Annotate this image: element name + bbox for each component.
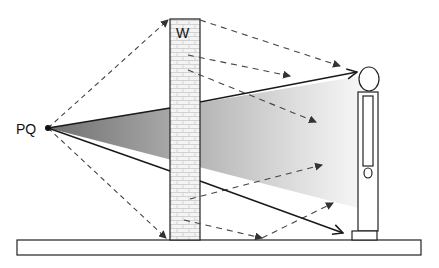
wall-label: W: [176, 25, 190, 41]
direct-beam-shadow: [48, 72, 385, 215]
observer-hand: [364, 168, 372, 178]
wall: W: [170, 19, 200, 240]
source-point: PQ: [16, 121, 51, 137]
diagram-canvas: W PQ: [0, 0, 439, 268]
observer-feet: [352, 231, 377, 240]
observer-head: [359, 67, 379, 91]
observer-arm: [363, 96, 373, 166]
source-label: PQ: [16, 121, 36, 137]
ground-slab: [17, 240, 421, 255]
